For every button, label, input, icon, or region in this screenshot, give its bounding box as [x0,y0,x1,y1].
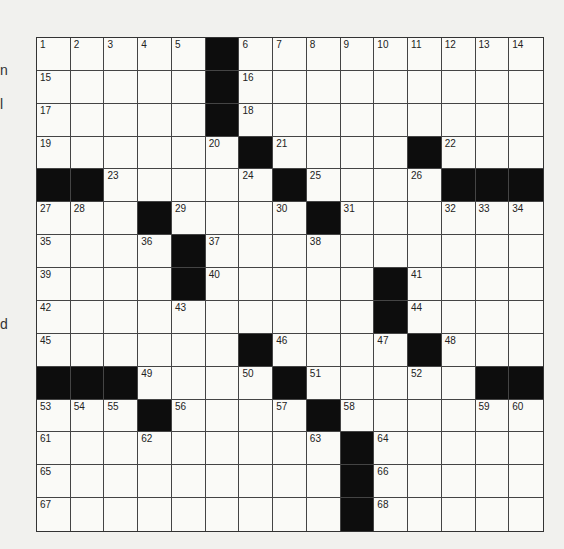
grid-cell[interactable]: 40 [206,268,240,301]
grid-cell[interactable]: 63 [307,432,341,465]
grid-cell[interactable]: 36 [138,235,172,268]
grid-cell[interactable] [341,334,375,367]
grid-cell[interactable] [341,137,375,170]
grid-cell[interactable]: 41 [408,268,442,301]
grid-cell[interactable] [104,432,138,465]
grid-cell[interactable]: 58 [341,400,375,433]
grid-cell[interactable]: 22 [442,137,476,170]
grid-cell[interactable] [509,268,543,301]
grid-cell[interactable] [239,432,273,465]
grid-cell[interactable] [206,367,240,400]
grid-cell[interactable] [206,301,240,334]
grid-cell[interactable] [104,104,138,137]
grid-cell[interactable]: 55 [104,400,138,433]
grid-cell[interactable] [307,465,341,498]
grid-cell[interactable] [138,137,172,170]
grid-cell[interactable]: 23 [104,169,138,202]
grid-cell[interactable]: 10 [374,38,408,71]
grid-cell[interactable] [509,71,543,104]
grid-cell[interactable] [273,71,307,104]
grid-cell[interactable]: 42 [37,301,71,334]
grid-cell[interactable]: 67 [37,498,71,531]
grid-cell[interactable] [273,301,307,334]
grid-cell[interactable]: 16 [239,71,273,104]
grid-cell[interactable] [307,137,341,170]
grid-cell[interactable] [172,104,206,137]
grid-cell[interactable] [104,465,138,498]
grid-cell[interactable]: 46 [273,334,307,367]
grid-cell[interactable]: 37 [206,235,240,268]
grid-cell[interactable] [104,202,138,235]
grid-cell[interactable] [239,235,273,268]
grid-cell[interactable]: 15 [37,71,71,104]
grid-cell[interactable] [442,367,476,400]
grid-cell[interactable] [273,498,307,531]
grid-cell[interactable] [442,498,476,531]
grid-cell[interactable] [509,432,543,465]
grid-cell[interactable] [71,465,105,498]
grid-cell[interactable] [138,169,172,202]
grid-cell[interactable] [341,301,375,334]
grid-cell[interactable] [476,334,510,367]
grid-cell[interactable] [138,498,172,531]
grid-cell[interactable]: 48 [442,334,476,367]
grid-cell[interactable]: 38 [307,235,341,268]
grid-cell[interactable] [509,334,543,367]
grid-cell[interactable]: 47 [374,334,408,367]
grid-cell[interactable]: 65 [37,465,71,498]
grid-cell[interactable] [239,301,273,334]
grid-cell[interactable] [476,71,510,104]
grid-cell[interactable] [341,367,375,400]
grid-cell[interactable]: 20 [206,137,240,170]
grid-cell[interactable] [341,235,375,268]
grid-cell[interactable] [239,202,273,235]
grid-cell[interactable]: 53 [37,400,71,433]
grid-cell[interactable] [138,268,172,301]
grid-cell[interactable]: 39 [37,268,71,301]
grid-cell[interactable] [374,169,408,202]
grid-cell[interactable] [341,169,375,202]
grid-cell[interactable] [206,202,240,235]
grid-cell[interactable] [239,498,273,531]
grid-cell[interactable] [71,334,105,367]
grid-cell[interactable] [138,301,172,334]
grid-cell[interactable] [408,104,442,137]
grid-cell[interactable] [138,334,172,367]
grid-cell[interactable] [476,137,510,170]
grid-cell[interactable] [172,432,206,465]
grid-cell[interactable] [71,71,105,104]
grid-cell[interactable]: 61 [37,432,71,465]
grid-cell[interactable] [408,498,442,531]
grid-cell[interactable] [104,498,138,531]
grid-cell[interactable]: 14 [509,38,543,71]
grid-cell[interactable] [307,301,341,334]
grid-cell[interactable] [408,400,442,433]
grid-cell[interactable] [307,104,341,137]
grid-cell[interactable]: 6 [239,38,273,71]
grid-cell[interactable]: 60 [509,400,543,433]
grid-cell[interactable] [341,268,375,301]
grid-cell[interactable]: 68 [374,498,408,531]
grid-cell[interactable] [172,367,206,400]
grid-cell[interactable] [307,71,341,104]
grid-cell[interactable]: 66 [374,465,408,498]
grid-cell[interactable] [374,400,408,433]
grid-cell[interactable]: 2 [71,38,105,71]
grid-cell[interactable]: 5 [172,38,206,71]
grid-cell[interactable] [172,71,206,104]
grid-cell[interactable] [71,498,105,531]
grid-cell[interactable]: 35 [37,235,71,268]
grid-cell[interactable]: 62 [138,432,172,465]
grid-cell[interactable] [509,465,543,498]
grid-cell[interactable]: 8 [307,38,341,71]
grid-cell[interactable]: 50 [239,367,273,400]
grid-cell[interactable] [374,235,408,268]
grid-cell[interactable] [307,268,341,301]
grid-cell[interactable] [71,235,105,268]
grid-cell[interactable]: 11 [408,38,442,71]
grid-cell[interactable] [239,465,273,498]
grid-cell[interactable] [239,268,273,301]
grid-cell[interactable] [341,104,375,137]
grid-cell[interactable] [273,235,307,268]
grid-cell[interactable] [408,235,442,268]
